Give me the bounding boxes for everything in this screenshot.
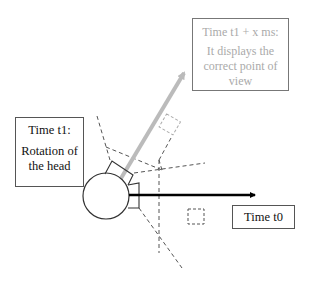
time-t0-label: Time t0 <box>244 210 283 224</box>
future-time-title: Time t1 + x ms: <box>193 25 288 40</box>
time-t1-box: Time t1: Rotation of the head <box>15 117 84 187</box>
target-square-t1 <box>159 114 180 135</box>
time-t1-title: Time t1: <box>16 123 83 139</box>
future-time-box: Time t1 + x ms: It displays the correct … <box>192 18 289 91</box>
fov-t0-dashed-lines <box>139 138 182 268</box>
target-square-t0 <box>188 209 204 224</box>
future-time-body: It displays the correct point of view <box>193 44 288 89</box>
gaze-arrow-t1 <box>120 73 184 180</box>
time-t0-box: Time t0 <box>232 205 295 229</box>
time-t1-body: Rotation of the head <box>16 144 83 175</box>
head-circle <box>83 173 129 219</box>
